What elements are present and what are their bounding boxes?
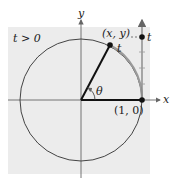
angle-label: θ (96, 85, 103, 98)
start-point-label: (1, 0) (114, 104, 144, 117)
terminal-point-label: (x, y) (102, 27, 130, 40)
unit-circle-diagram: t > 0 y x (x, y) t t θ (1, 0) (0, 0, 176, 183)
condition-label: t > 0 (13, 32, 41, 45)
y-axis-label: y (77, 7, 85, 20)
number-line-t-label: t (147, 31, 152, 44)
point-t (139, 34, 145, 40)
point-start (139, 97, 145, 103)
x-axis-label: x (163, 93, 170, 106)
point-terminal (107, 42, 113, 48)
arc-label: t (117, 42, 122, 55)
